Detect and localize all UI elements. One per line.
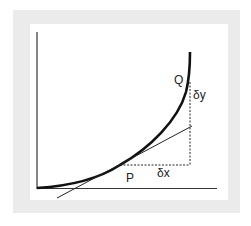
derivative-diagram [0,0,251,226]
label-delta-y: δy [193,89,206,101]
label-p: P [126,172,134,184]
tangent-line [57,126,192,198]
label-q: Q [174,74,183,86]
label-delta-x: δx [157,167,170,179]
